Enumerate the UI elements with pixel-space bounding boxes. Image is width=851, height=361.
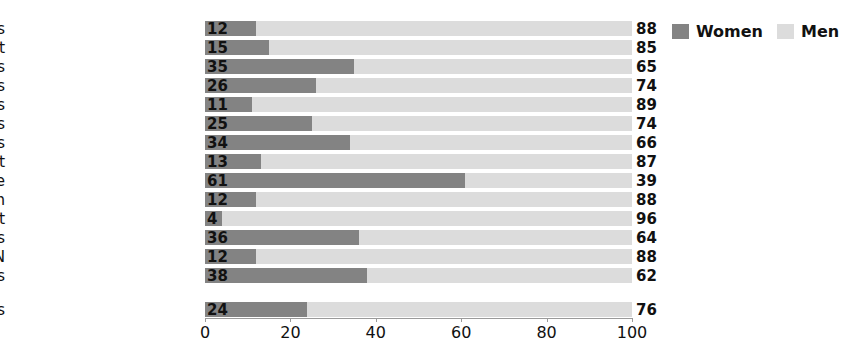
value-label-women: 11 bbox=[207, 97, 228, 112]
x-axis-tick-label: 100 bbox=[617, 323, 648, 342]
category-label: Crime, legal stories bbox=[0, 58, 5, 76]
bar-men-segment bbox=[205, 249, 632, 264]
bar-men-segment bbox=[205, 230, 632, 245]
chart-page: Economy, business1288Politics, governmen… bbox=[0, 0, 851, 361]
chart-row: War, terrorism1288 bbox=[0, 190, 660, 209]
bar-women-segment bbox=[205, 268, 367, 283]
value-label-men: 88 bbox=[636, 249, 657, 264]
value-label-women: 12 bbox=[207, 192, 228, 207]
value-label-men: 88 bbox=[636, 21, 657, 36]
chart-row: Economy, business1288 bbox=[0, 19, 660, 38]
bar-men-segment bbox=[205, 302, 632, 317]
chart-row: Human rights3664 bbox=[0, 228, 660, 247]
category-label: Economy, business bbox=[0, 20, 5, 38]
value-label-women: 38 bbox=[207, 268, 228, 283]
category-label: Politics, government bbox=[0, 39, 5, 57]
value-label-women: 15 bbox=[207, 40, 228, 55]
bar-men-segment bbox=[205, 154, 632, 169]
x-axis-line bbox=[205, 318, 632, 319]
chart-row: Riots, demonstrations3862 bbox=[0, 266, 660, 285]
stacked-bar-chart: Economy, business1288Politics, governmen… bbox=[0, 0, 851, 361]
value-label-women: 12 bbox=[207, 21, 228, 36]
x-axis-tick bbox=[376, 318, 377, 322]
chart-row: Politics, government1585 bbox=[0, 38, 660, 57]
chart-row: Disaster, accidents2574 bbox=[0, 114, 660, 133]
bar-women-segment bbox=[205, 230, 359, 245]
category-label: Social issues bbox=[0, 134, 5, 152]
value-label-men: 74 bbox=[636, 78, 657, 93]
legend-label-men: Men bbox=[801, 22, 839, 41]
value-label-men: 76 bbox=[636, 302, 657, 317]
value-label-women: 25 bbox=[207, 116, 228, 131]
value-label-women: 4 bbox=[207, 211, 217, 226]
x-axis-tick bbox=[205, 318, 206, 322]
value-label-men: 64 bbox=[636, 230, 657, 245]
bar-men-segment bbox=[205, 40, 632, 55]
x-axis: 020406080100 bbox=[205, 318, 632, 358]
bar-men-segment bbox=[205, 173, 632, 188]
men-swatch-icon bbox=[777, 24, 794, 39]
bar-men-segment bbox=[205, 59, 632, 74]
chart-row: Arts, entertainment1387 bbox=[0, 152, 660, 171]
chart-legend: Women Men bbox=[672, 22, 839, 41]
x-axis-tick bbox=[547, 318, 548, 322]
bar-men-segment bbox=[205, 21, 632, 36]
chart-row: International crisis, UN1288 bbox=[0, 247, 660, 266]
chart-row: Sports2674 bbox=[0, 76, 660, 95]
value-label-men: 62 bbox=[636, 268, 657, 283]
value-label-men: 88 bbox=[636, 192, 657, 207]
value-label-women: 24 bbox=[207, 302, 228, 317]
bar-women-segment bbox=[205, 173, 465, 188]
category-label: Riots, demonstrations bbox=[0, 267, 5, 285]
value-label-women: 61 bbox=[207, 173, 228, 188]
bar-men-segment bbox=[205, 78, 632, 93]
bar-men-segment bbox=[205, 192, 632, 207]
value-label-men: 96 bbox=[636, 211, 657, 226]
chart-row: Environment496 bbox=[0, 209, 660, 228]
bar-men-segment bbox=[205, 211, 632, 226]
value-label-women: 34 bbox=[207, 135, 228, 150]
legend-item-women: Women bbox=[672, 22, 763, 41]
value-label-women: 26 bbox=[207, 78, 228, 93]
x-axis-tick bbox=[290, 318, 291, 322]
bar-men-segment bbox=[205, 268, 632, 283]
value-label-women: 35 bbox=[207, 59, 228, 74]
bar-men-segment bbox=[205, 97, 632, 112]
chart-row: Labour issues, strikes1189 bbox=[0, 95, 660, 114]
category-label: All subjects bbox=[0, 301, 5, 319]
chart-row: Health, medicine6139 bbox=[0, 171, 660, 190]
category-label: International crisis, UN bbox=[0, 248, 5, 266]
x-axis-tick-label: 0 bbox=[200, 323, 210, 342]
category-label: War, terrorism bbox=[0, 191, 5, 209]
legend-item-men: Men bbox=[777, 22, 839, 41]
category-label: Environment bbox=[0, 210, 5, 228]
category-label: Human rights bbox=[0, 229, 5, 247]
value-label-men: 74 bbox=[636, 116, 657, 131]
bar-men-segment bbox=[205, 116, 632, 131]
chart-row: Social issues3466 bbox=[0, 133, 660, 152]
value-label-men: 39 bbox=[636, 173, 657, 188]
category-label: Disaster, accidents bbox=[0, 115, 5, 133]
x-axis-tick-label: 80 bbox=[536, 323, 556, 342]
value-label-men: 87 bbox=[636, 154, 657, 169]
category-label: Sports bbox=[0, 77, 5, 95]
x-axis-tick-label: 40 bbox=[366, 323, 386, 342]
value-label-women: 36 bbox=[207, 230, 228, 245]
category-label: Labour issues, strikes bbox=[0, 96, 5, 114]
women-swatch-icon bbox=[672, 24, 689, 39]
value-label-women: 12 bbox=[207, 249, 228, 264]
value-label-men: 89 bbox=[636, 97, 657, 112]
category-label: Arts, entertainment bbox=[0, 153, 5, 171]
value-label-men: 85 bbox=[636, 40, 657, 55]
chart-row: Crime, legal stories3565 bbox=[0, 57, 660, 76]
category-label: Health, medicine bbox=[0, 172, 5, 190]
x-axis-tick-label: 60 bbox=[451, 323, 471, 342]
value-label-men: 66 bbox=[636, 135, 657, 150]
x-axis-tick bbox=[632, 318, 633, 322]
x-axis-tick bbox=[461, 318, 462, 322]
bar-men-segment bbox=[205, 135, 632, 150]
x-axis-tick-label: 20 bbox=[280, 323, 300, 342]
summary-row: All subjects2476 bbox=[0, 300, 660, 319]
legend-label-women: Women bbox=[696, 22, 763, 41]
value-label-men: 65 bbox=[636, 59, 657, 74]
